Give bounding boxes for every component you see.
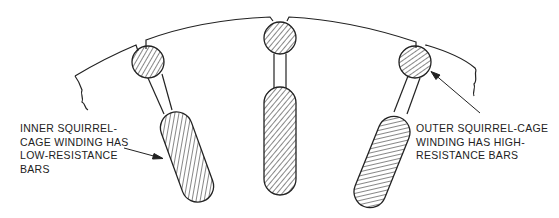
right-outer-bar: [399, 46, 431, 78]
left-neck-edge-b: [162, 74, 172, 110]
right-neck-edge-b: [407, 78, 420, 114]
arc-segment-right: [426, 45, 476, 70]
rotor-slot-diagram: [0, 0, 559, 218]
inner-winding-label: INNER SQUIRREL- CAGE WINDING HAS LOW-RES…: [20, 122, 130, 176]
arc-segment-left-center: [146, 17, 273, 49]
right-break-edge: [473, 70, 476, 96]
left-outer-bar: [132, 46, 164, 78]
arc-segment-left: [75, 45, 138, 76]
right-inner-bar: [349, 112, 415, 213]
center-inner-bar: [264, 87, 296, 195]
center-outer-bar: [264, 22, 296, 54]
arc-segment-center-right: [287, 17, 416, 48]
outer-winding-label: OUTER SQUIRREL-CAGE WINDING HAS HIGH- RE…: [416, 122, 556, 163]
left-inner-bar: [156, 107, 218, 206]
left-break-edge: [75, 76, 88, 110]
left-neck-edge-a: [148, 78, 164, 114]
inner-arrowhead-icon: [153, 154, 164, 160]
center-slot: [264, 22, 296, 195]
right-neck-edge-a: [394, 76, 408, 112]
left-slot: [132, 46, 218, 207]
